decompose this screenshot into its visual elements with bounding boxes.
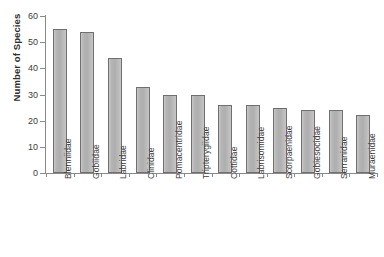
x-tick-mark — [212, 173, 213, 177]
x-tick-mark — [46, 173, 47, 177]
x-tick-label: Clinidae — [146, 147, 156, 179]
x-tick-label: Pomacentridae — [174, 121, 184, 179]
x-tick-label: Blenniidae — [63, 138, 73, 179]
y-tick-label: 0 — [4, 168, 38, 178]
x-tick-mark — [129, 173, 130, 177]
y-tick-mark — [40, 68, 45, 69]
x-tick-mark — [156, 173, 157, 177]
y-tick-mark — [40, 95, 45, 96]
x-tick-mark — [184, 173, 185, 177]
y-tick-mark — [40, 16, 45, 17]
x-tick-label: Gobiesocidae — [312, 126, 322, 179]
y-tick-mark — [40, 147, 45, 148]
y-tick-label: 10 — [4, 142, 38, 152]
x-tick-label: Labrisomidae — [256, 127, 266, 179]
x-tick-mark — [349, 173, 350, 177]
y-tick-label: 60 — [4, 11, 38, 21]
bar-chart-figure: Number of Species 0102030405060 Blenniid… — [0, 0, 384, 257]
y-tick-mark — [40, 173, 45, 174]
x-tick-label: Gobiidae — [91, 144, 101, 179]
x-tick-label: Scorpaenidae — [284, 125, 294, 179]
x-tick-mark — [377, 173, 378, 177]
y-tick-mark — [40, 42, 45, 43]
x-tick-label: Serranidae — [339, 136, 349, 179]
x-tick-mark — [322, 173, 323, 177]
x-tick-label: Labridae — [118, 145, 128, 179]
x-tick-mark — [74, 173, 75, 177]
x-tick-mark — [267, 173, 268, 177]
y-tick-label: 20 — [4, 116, 38, 126]
y-tick-mark — [40, 121, 45, 122]
x-tick-mark — [101, 173, 102, 177]
x-tick-mark — [294, 173, 295, 177]
x-tick-label: Cottidae — [229, 147, 239, 179]
y-tick-label: 50 — [4, 37, 38, 47]
x-tick-label: Tripterygiidae — [201, 126, 211, 179]
y-tick-label: 40 — [4, 63, 38, 73]
y-tick-label: 30 — [4, 90, 38, 100]
x-tick-label: Muraenidae — [367, 133, 377, 179]
x-tick-mark — [239, 173, 240, 177]
